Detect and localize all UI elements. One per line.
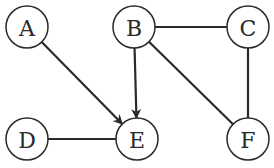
nodes: A B C D E F	[6, 6, 269, 160]
graph-diagram: A B C D E F	[0, 0, 274, 168]
edge-b-f	[149, 42, 233, 125]
node-a: A	[6, 6, 48, 48]
node-e: E	[116, 118, 158, 160]
edge-b-to-e	[135, 48, 137, 118]
node-e-label: E	[129, 128, 145, 153]
node-c-label: C	[240, 16, 257, 41]
node-f-label: F	[240, 128, 255, 153]
node-d: D	[6, 118, 48, 160]
node-f: F	[227, 118, 269, 160]
edge-a-to-e	[42, 42, 123, 124]
node-b: B	[113, 6, 155, 48]
node-d-label: D	[18, 128, 36, 153]
node-a-label: A	[18, 16, 36, 41]
node-c: C	[227, 6, 269, 48]
node-b-label: B	[126, 16, 142, 41]
